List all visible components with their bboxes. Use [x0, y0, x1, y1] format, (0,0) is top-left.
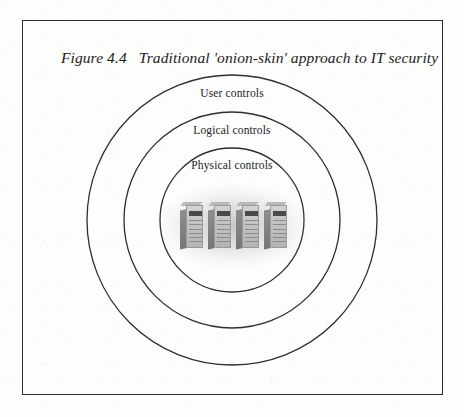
server-drive-bay	[189, 233, 202, 234]
server-drive-bay	[189, 241, 202, 242]
server-badge	[217, 211, 230, 216]
server-front-panel	[186, 205, 203, 248]
server-drive-bay	[217, 220, 230, 221]
server-cluster	[148, 168, 320, 280]
server-glow	[148, 168, 320, 280]
figure-page: Figure 4.4Traditional 'onion-skin' appro…	[0, 0, 464, 417]
server-drive-bay	[245, 220, 258, 221]
server-drive-bay	[273, 237, 286, 238]
ring-label-user-controls: User controls	[200, 87, 264, 99]
server-drive-bay	[273, 233, 286, 234]
server-front-panel	[214, 205, 231, 248]
server-front-panel	[242, 205, 259, 248]
server-drive-bay	[273, 220, 286, 221]
server-drive-bay	[273, 229, 286, 230]
server-front-panel	[270, 205, 287, 248]
ring-label-logical-controls: Logical controls	[193, 124, 270, 136]
server-tower	[208, 205, 231, 248]
server-drive-bay	[245, 237, 258, 238]
server-drive-bay	[245, 224, 258, 225]
server-badge	[273, 211, 286, 216]
server-drive-bay	[217, 229, 230, 230]
server-drive-bay	[217, 241, 230, 242]
server-badge	[245, 211, 258, 216]
server-badge	[189, 211, 202, 216]
server-drive-bay	[217, 233, 230, 234]
server-drive-bay	[217, 224, 230, 225]
server-drive-bay	[245, 241, 258, 242]
server-drive-bay	[217, 237, 230, 238]
ring-label-physical-controls: Physical controls	[191, 159, 272, 171]
server-tower	[264, 205, 287, 248]
server-drive-bay	[273, 241, 286, 242]
server-drive-bay	[245, 233, 258, 234]
server-drive-bay	[189, 220, 202, 221]
server-drive-bay	[189, 224, 202, 225]
server-tower	[236, 205, 259, 248]
server-drive-bay	[273, 224, 286, 225]
server-drive-bay	[245, 229, 258, 230]
server-tower	[180, 205, 203, 248]
server-drive-bay	[189, 229, 202, 230]
server-drive-bay	[189, 237, 202, 238]
